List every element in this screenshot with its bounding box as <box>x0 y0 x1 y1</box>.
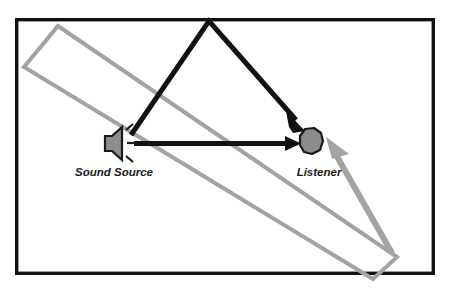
listener-label: Listener <box>297 166 342 178</box>
sound-source-label: Sound Source <box>75 166 154 178</box>
room-boundary <box>17 20 434 274</box>
listener-head-icon <box>300 128 323 154</box>
diagram-canvas: Sound Source Listener <box>0 0 450 294</box>
acoustics-diagram: Sound Source Listener <box>0 0 450 294</box>
listener-head-shape <box>300 128 323 154</box>
